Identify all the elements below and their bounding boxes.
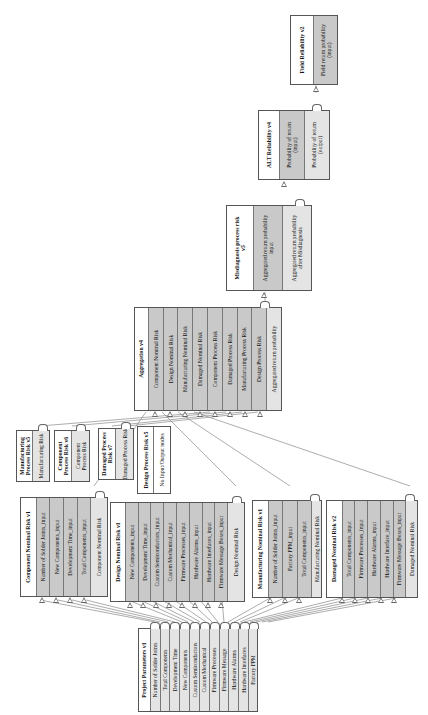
input-port-icon[interactable] [192,602,198,608]
output-port-icon[interactable] [180,622,190,629]
input-port-cell: Number of Solder Joints_input [37,498,51,596]
input-port-icon[interactable] [391,597,397,603]
input-port-icon[interactable] [140,602,146,608]
node-component-nominal-risk[interactable]: Component Nominal Risk v1 Number of Sold… [20,497,108,597]
input-port-cell: New Components_input [126,503,139,601]
node-title: Aggregation v4 [135,308,149,410]
input-port-icon[interactable] [352,597,358,603]
input-port-cell: Manufacturing Nominal Risk [178,308,193,410]
input-port-icon[interactable] [167,411,173,417]
input-port-icon[interactable] [218,602,224,608]
node-title: Component Process Risk v6 [55,431,72,481]
input-port-cell: Firmware Processes_input [177,503,190,601]
node-damaged-process-risk[interactable]: Damaged Process Risk v7 Damaged Process … [98,428,134,480]
node-component-process-risk[interactable]: Component Process Risk v6 Component Proc… [54,430,90,482]
input-port-icon[interactable] [257,411,263,417]
input-port-cell: Field return probability (input) [314,16,337,84]
output-port-icon[interactable] [232,496,242,503]
node-title: ALT Reliability v4 [259,111,280,179]
output-port-icon[interactable] [38,424,48,431]
input-port-icon[interactable] [53,597,59,603]
node-project-parameters[interactable]: Project Parameters v1 Number of Solder J… [138,628,258,712]
node-field-reliability[interactable]: Field Reliability v2 Field return probab… [290,15,338,85]
input-port-icon[interactable] [378,597,384,603]
node-note: No Input/Output nodes [154,427,170,493]
input-port-icon[interactable] [267,597,273,603]
node-title: Field Reliability v2 [291,16,314,84]
node-manufacturing-nominal-risk[interactable]: Manufacturing Nominal Risk v1 Number of … [252,500,322,598]
output-port-icon[interactable] [190,622,200,629]
node-misdiagnosis[interactable]: Misdiagnosis process risk v5 Aggregated … [226,205,312,291]
input-port-icon[interactable] [166,602,172,608]
input-port-cell: Total Components_input [343,501,356,597]
output-port-icon[interactable] [95,491,105,498]
input-port-cell: Factory FPM_input [283,501,298,597]
input-port-cell: Custom Mechanical_input [164,503,177,601]
output-port-cell: Hardware Interfaces [239,629,249,711]
input-port-icon[interactable] [296,597,302,603]
input-port-icon[interactable] [67,597,73,603]
input-port-icon[interactable] [152,411,158,417]
input-port-cell: Aggregated return probability input [254,206,282,290]
node-title: Component Nominal Risk v1 [21,498,37,596]
node-manufacturing-process-risk[interactable]: Manufacturing Process Risk v5 Manufactur… [16,430,50,482]
input-port-icon[interactable] [281,181,287,187]
output-port-icon[interactable] [260,301,270,308]
output-port-cell: Manufacturing Risk [33,431,49,481]
input-port-icon[interactable] [197,411,203,417]
output-port-icon[interactable] [210,622,220,629]
node-damaged-nominal-risk[interactable]: Damaged Nominal Risk v2 Total Components… [326,500,418,598]
input-port-cell: Hardware Alarms_input [368,501,381,597]
input-port-icon[interactable] [127,602,133,608]
input-port-cell: Damaged Nominal Risk [193,308,208,410]
node-title: Manufacturing Process Risk v5 [17,431,33,481]
output-port-icon[interactable] [230,622,240,629]
input-port-icon[interactable] [153,602,159,608]
output-port-icon[interactable] [150,622,160,629]
input-port-cell: Firmware Processes_input [355,501,368,597]
input-port-icon[interactable] [339,597,345,603]
output-port-cell: Hardware Alarms [229,629,239,711]
output-port-icon[interactable] [160,622,170,629]
input-port-icon[interactable] [282,597,288,603]
output-port-cell: Firmware Processes [210,629,220,711]
output-port-icon[interactable] [312,104,322,111]
input-port-cell: Hardware Interface_input [381,501,394,597]
output-port-cell: Number of Solder Joints [151,629,161,711]
output-port-icon[interactable] [295,199,305,206]
input-port-icon[interactable] [365,597,371,603]
input-port-icon[interactable] [261,292,267,298]
input-port-icon[interactable] [242,411,248,417]
node-aggregation[interactable]: Aggregation v4 Component Nominal Risk De… [134,307,282,411]
input-port-cell: Damaged Process Risk [223,308,238,410]
output-port-cell: Probability of return (output) [305,111,329,179]
input-port-icon[interactable] [182,411,188,417]
input-port-cell: Firmware Message Boxes_input [215,503,228,601]
output-port-icon[interactable] [76,424,86,431]
input-port-icon[interactable] [39,597,45,603]
input-port-icon[interactable] [205,602,211,608]
input-port-cell: Hardware Alarms_input [190,503,203,601]
output-port-icon[interactable] [405,494,415,501]
output-port-cell: Custom Mechanical [200,629,210,711]
output-port-cell: Component Process Risk [72,431,89,481]
output-port-icon[interactable] [170,622,180,629]
input-port-icon[interactable] [212,411,218,417]
node-design-nominal-risk[interactable]: Design Nominal Risk v1 New Components_in… [110,502,245,602]
output-port-icon[interactable] [200,622,210,629]
output-port-cell: Damaged Nominal Risk [406,501,417,597]
output-port-cell: Development Time [170,629,180,711]
input-port-cell: Total Components_input [78,498,92,596]
output-port-icon[interactable] [220,622,230,629]
input-port-icon[interactable] [227,411,233,417]
input-port-icon[interactable] [81,597,87,603]
output-port-icon[interactable] [249,622,259,629]
output-port-cell: Aggregated return probability after Misd… [283,206,311,290]
output-port-cell: Factory FPM [249,629,257,711]
input-port-icon[interactable] [179,602,185,608]
node-alt-reliability[interactable]: ALT Reliability v4 Probability of return… [258,110,330,180]
output-port-icon[interactable] [310,494,320,501]
output-port-icon[interactable] [121,422,131,429]
input-port-icon[interactable] [313,86,319,92]
node-design-process-risk[interactable]: Design Process Risk v5 No Input/Output n… [137,426,171,494]
